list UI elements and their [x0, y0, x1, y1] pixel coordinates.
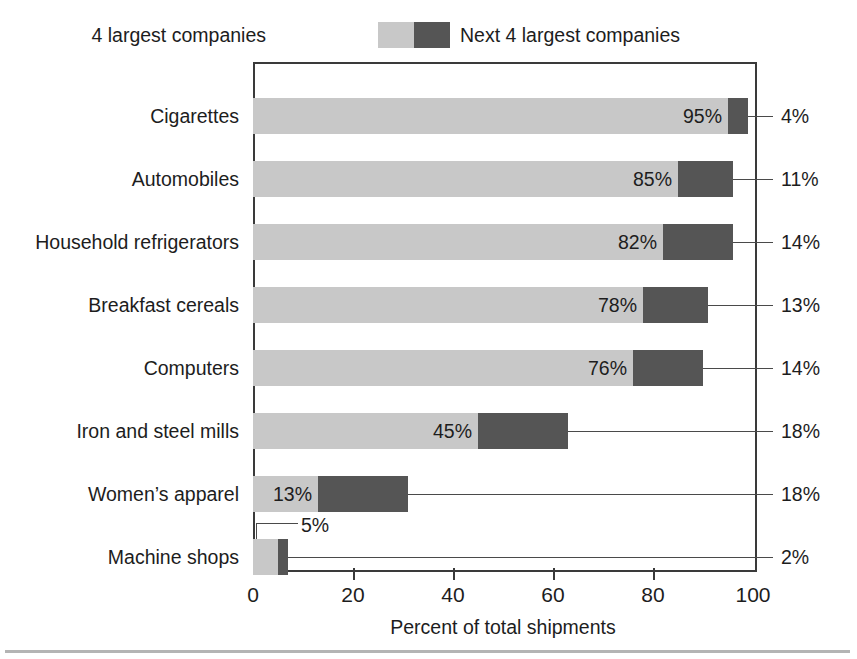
callout-leader-line — [708, 305, 773, 306]
callout-leader-line — [733, 179, 773, 180]
callout-leader-line — [733, 242, 773, 243]
bar-value-label-4-largest: 45% — [433, 420, 472, 442]
x-axis-tick — [653, 568, 655, 580]
page-divider-rule — [5, 650, 850, 653]
x-axis-tick-label: 0 — [247, 582, 259, 608]
bar-row: Cigarettes95%4% — [0, 98, 857, 134]
bar-segment-next-4-largest — [318, 476, 408, 512]
category-label: Breakfast cereals — [88, 293, 239, 317]
bar-value-label-4-largest: 78% — [598, 294, 637, 316]
bar-segment-next-4-largest — [678, 161, 733, 197]
bar-value-label-4-largest: 85% — [633, 168, 672, 190]
bar-row: Automobiles85%11% — [0, 161, 857, 197]
category-label: Women’s apparel — [88, 482, 239, 506]
stacked-bar-chart-figure: 4 largest companies Next 4 largest compa… — [0, 0, 857, 659]
x-axis-tick — [353, 568, 355, 580]
callout-leader-line — [408, 494, 773, 495]
callout-value-next-4-largest: 11% — [781, 168, 819, 190]
callout-leader-line — [568, 431, 773, 432]
bar-segment-4-largest — [253, 287, 643, 323]
bar-segment-4-largest — [253, 224, 663, 260]
category-label: Cigarettes — [150, 104, 239, 128]
x-axis-tick — [553, 568, 555, 580]
x-axis-title: Percent of total shipments — [253, 615, 753, 639]
bar-value-label-4-largest: 95% — [683, 105, 722, 127]
bar-segment-4-largest — [253, 161, 678, 197]
callout-value-next-4-largest: 18% — [781, 483, 820, 505]
callout-leader-line — [748, 116, 773, 117]
bar-row: Iron and steel mills45%18% — [0, 413, 857, 449]
callout-value-next-4-largest: 13% — [781, 294, 820, 316]
callout-leader-line — [703, 368, 773, 369]
bar-segment-next-4-largest — [643, 287, 708, 323]
bar-value-label-4-largest: 82% — [618, 231, 657, 253]
bar-segment-4-largest — [253, 350, 633, 386]
category-label: Automobiles — [132, 167, 239, 191]
x-axis-tick-label: 40 — [441, 582, 464, 608]
bar-row: Breakfast cereals78%13% — [0, 287, 857, 323]
x-axis-tick — [453, 568, 455, 580]
callout-value-next-4-largest: 18% — [781, 420, 820, 442]
bar-value-label-4-largest: 13% — [273, 483, 312, 505]
bar-row: Computers76%14% — [0, 350, 857, 386]
x-axis-tick-label: 20 — [341, 582, 364, 608]
x-axis-tick-label: 100 — [735, 582, 770, 608]
x-axis-tick-label: 60 — [541, 582, 564, 608]
category-label: Household refrigerators — [35, 230, 239, 254]
bar-segment-4-largest — [253, 98, 728, 134]
category-label: Computers — [144, 356, 239, 380]
x-axis-tick-label: 80 — [641, 582, 664, 608]
callout-value-next-4-largest: 14% — [781, 357, 820, 379]
bar-segment-next-4-largest — [663, 224, 733, 260]
bar-value-label-4-largest: 5% — [301, 514, 329, 536]
bar-row: Household refrigerators82%14% — [0, 224, 857, 260]
category-label: Iron and steel mills — [76, 419, 239, 443]
bar-rows: Cigarettes95%4%Automobiles85%11%Househol… — [0, 0, 857, 659]
callout-value-next-4-largest: 4% — [781, 105, 809, 127]
bar-row: Women’s apparel13%18% — [0, 476, 857, 512]
bar-segment-next-4-largest — [478, 413, 568, 449]
bar-segment-next-4-largest — [633, 350, 703, 386]
callout-value-next-4-largest: 14% — [781, 231, 820, 253]
bar-segment-next-4-largest — [728, 98, 748, 134]
bar-value-label-4-largest: 76% — [588, 357, 627, 379]
